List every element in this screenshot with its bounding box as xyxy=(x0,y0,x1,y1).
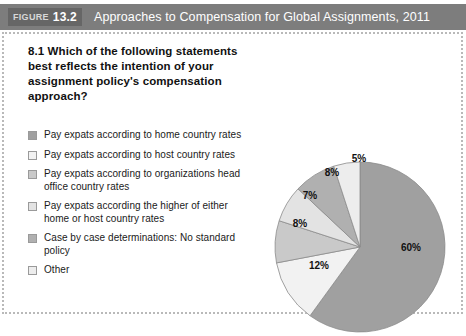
figure-content-panel: 8.1 Which of the following statements be… xyxy=(2,32,463,314)
pie-slice-label: 12% xyxy=(309,260,329,271)
chart-legend: Pay expats according to home country rat… xyxy=(28,129,243,284)
pie-chart: 60%12%8%7%8%5% xyxy=(271,126,451,306)
legend-item-label: Case by case determinations: No standard… xyxy=(44,232,243,257)
pie-chart-svg: 60%12%8%7%8%5% xyxy=(271,126,451,336)
survey-question-text: 8.1 Which of the following statements be… xyxy=(28,44,260,104)
pie-slice-label: 8% xyxy=(293,218,308,229)
figure-title: Approaches to Compensation for Global As… xyxy=(94,10,430,24)
legend-swatch-icon xyxy=(28,234,37,243)
legend-swatch-icon xyxy=(28,202,37,211)
legend-item: Pay expats according to organizations he… xyxy=(28,168,243,193)
legend-item: Pay expats according the higher of eithe… xyxy=(28,200,243,225)
legend-item: Case by case determinations: No standard… xyxy=(28,232,243,257)
legend-item-label: Other xyxy=(44,264,69,277)
legend-item-label: Pay expats according the higher of eithe… xyxy=(44,200,243,225)
legend-item-label: Pay expats according to home country rat… xyxy=(44,129,241,142)
legend-swatch-icon xyxy=(28,266,37,275)
legend-item: Other xyxy=(28,264,243,277)
legend-swatch-icon xyxy=(28,131,37,140)
legend-swatch-icon xyxy=(28,151,37,160)
pie-slice-label: 8% xyxy=(325,167,340,178)
legend-item-label: Pay expats according to organizations he… xyxy=(44,168,243,193)
pie-slice-label: 7% xyxy=(303,190,318,201)
legend-item-label: Pay expats according to host country rat… xyxy=(44,149,235,162)
figure-badge-word: FIGURE xyxy=(13,12,49,22)
figure-number-badge: FIGURE 13.2 xyxy=(8,8,82,26)
legend-item: Pay expats according to host country rat… xyxy=(28,149,243,162)
pie-slice-label: 60% xyxy=(401,242,421,253)
figure-header-bar: FIGURE 13.2 Approaches to Compensation f… xyxy=(0,4,466,30)
pie-slice-label: 5% xyxy=(352,153,367,164)
figure-badge-number: 13.2 xyxy=(53,10,77,24)
legend-swatch-icon xyxy=(28,170,37,179)
legend-item: Pay expats according to home country rat… xyxy=(28,129,243,142)
